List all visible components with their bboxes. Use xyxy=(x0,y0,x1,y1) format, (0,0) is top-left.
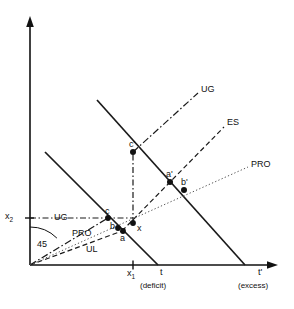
curve-label-pro-left: PRO xyxy=(72,229,92,238)
axis-group xyxy=(25,16,278,270)
es-ul-curve xyxy=(30,127,224,265)
point-c-prime xyxy=(130,149,136,155)
point-label-a: a xyxy=(120,234,125,243)
figure-canvas: x2 x1 45 t (deficit) t' (excess) UG ES P… xyxy=(0,0,294,309)
point-label-a-prime: a' xyxy=(166,170,173,179)
budget-line-deficit xyxy=(45,152,158,265)
axis-note-excess: (excess) xyxy=(238,281,268,290)
point-label-b-prime: b' xyxy=(181,178,188,187)
angle-arc-45 xyxy=(30,227,57,238)
angle-arc-group xyxy=(30,227,57,238)
es-segment-a-to-label xyxy=(122,127,224,231)
curve-label-es-right: ES xyxy=(227,118,239,127)
point-b-prime xyxy=(181,187,187,193)
horizontal-axis-arrowhead xyxy=(267,261,278,269)
point-label-x: x xyxy=(137,224,142,233)
curve-label-ul-left: UL xyxy=(86,245,98,254)
point-markers xyxy=(105,149,187,234)
diagram-svg xyxy=(0,0,294,309)
point-b xyxy=(115,225,121,231)
point-label-c-prime: c' xyxy=(129,140,135,149)
point-label-c: c xyxy=(105,207,110,216)
vertical-axis-arrowhead xyxy=(26,16,34,27)
curve-label-ug-right: UG xyxy=(201,85,215,94)
axis-note-deficit: (deficit) xyxy=(140,281,166,290)
axis-label-t-prime: t' xyxy=(258,268,262,277)
curve-label-ug-left: UG xyxy=(54,213,68,222)
x-axis-tick-label: x1 xyxy=(127,269,135,281)
axis-label-t: t xyxy=(160,268,163,277)
curve-label-pro-right: PRO xyxy=(251,160,271,169)
point-x xyxy=(130,220,136,226)
budget-lines xyxy=(45,100,245,265)
point-a-prime xyxy=(167,179,173,185)
y-axis-tick-label: x2 xyxy=(5,212,13,224)
ug-segment-cprime-to-label xyxy=(133,93,198,152)
angle-label-45: 45 xyxy=(37,240,47,249)
point-label-b: b xyxy=(110,222,115,231)
